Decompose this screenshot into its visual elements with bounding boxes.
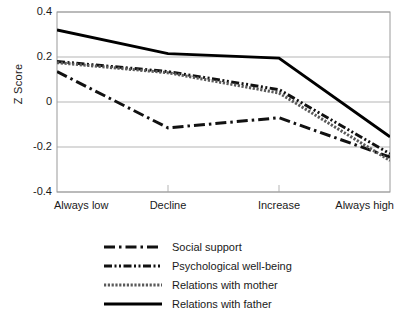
legend-item: Social support: [104, 238, 242, 256]
x-axis-tick-label: Always high: [335, 199, 394, 211]
series-lines: [57, 30, 390, 161]
x-axis-tick-label: Always low: [54, 199, 108, 211]
legend-label: Social support: [172, 241, 242, 253]
legend-label: Psychological well-being: [172, 260, 292, 272]
legend-item: Psychological well-being: [104, 257, 292, 275]
legend-label: Relations with mother: [172, 279, 278, 291]
plot-canvas: [0, 0, 420, 232]
legend-line-swatch: [104, 240, 162, 254]
x-axis-tick-label: Decline: [150, 199, 187, 211]
legend-item: Relations with father: [104, 295, 272, 313]
legend: Social supportPsychological well-beingRe…: [0, 238, 420, 318]
legend-label: Relations with father: [172, 298, 272, 310]
legend-line-swatch: [104, 259, 162, 273]
x-axis-tick-label: Increase: [258, 199, 300, 211]
legend-item: Relations with mother: [104, 276, 278, 294]
legend-line-swatch: [104, 278, 162, 292]
legend-line-swatch: [104, 297, 162, 311]
x-axis-ticks: [168, 185, 279, 192]
series-line: [57, 72, 390, 158]
figure: Z Score 0.40.20-0.2-0.4 Always lowDeclin…: [0, 0, 420, 318]
chart-area: Z Score 0.40.20-0.2-0.4 Always lowDeclin…: [0, 0, 420, 232]
series-line: [57, 63, 390, 161]
series-line: [57, 62, 390, 154]
